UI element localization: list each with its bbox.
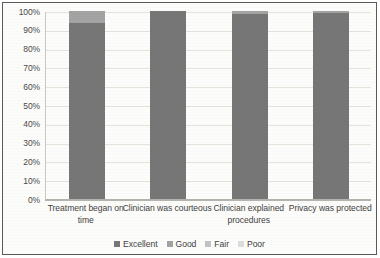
chart-frame: 100%90%80%70%60%50%40%30%20%10%0% Treatm…: [2, 2, 377, 255]
bar-group[interactable]: [69, 11, 105, 199]
bar-segment-good[interactable]: [232, 11, 268, 14]
y-axis-tick-label: 0%: [4, 196, 40, 205]
bar-group[interactable]: [313, 11, 349, 199]
x-axis-label: Clinician was courteous: [123, 203, 213, 215]
legend-item-good[interactable]: Good: [167, 239, 197, 249]
bar-segment-good[interactable]: [69, 11, 105, 23]
legend-label: Good: [176, 239, 197, 249]
x-axis-category-labels: Treatment began on timeClinician was cou…: [45, 203, 371, 233]
legend-label: Poor: [247, 239, 265, 249]
chart-canvas: 100%90%80%70%60%50%40%30%20%10%0% Treatm…: [3, 3, 376, 254]
bar-group[interactable]: [232, 11, 268, 199]
y-axis-tick-label: 70%: [4, 64, 40, 73]
gridline: [46, 200, 371, 201]
chart-legend: ExcellentGoodFairPoor: [3, 236, 376, 252]
legend-label: Excellent: [123, 239, 157, 249]
plot-area: [45, 12, 371, 200]
legend-item-fair[interactable]: Fair: [205, 239, 229, 249]
y-axis-tick-label: 40%: [4, 120, 40, 129]
y-axis-tick-label: 80%: [4, 45, 40, 54]
x-axis-label: Treatment began on time: [41, 203, 131, 226]
y-axis-tick-label: 10%: [4, 177, 40, 186]
y-axis-tick-label: 100%: [4, 8, 40, 17]
legend-swatch-icon: [205, 241, 211, 247]
bar-segment-excellent[interactable]: [232, 14, 268, 199]
legend-swatch-icon: [167, 241, 173, 247]
bar-group[interactable]: [150, 11, 186, 199]
x-axis-label: Privacy was protected: [286, 203, 376, 215]
y-axis-tick-label: 50%: [4, 102, 40, 111]
y-axis-tick-label: 90%: [4, 26, 40, 35]
bar-segment-excellent[interactable]: [150, 11, 186, 199]
y-axis-tick-label: 30%: [4, 139, 40, 148]
y-axis: 100%90%80%70%60%50%40%30%20%10%0%: [5, 3, 43, 200]
y-axis-tick-label: 60%: [4, 83, 40, 92]
x-axis-label: Clinician explained procedures: [204, 203, 294, 226]
legend-swatch-icon: [238, 241, 244, 247]
legend-item-poor[interactable]: Poor: [238, 239, 265, 249]
y-axis-tick-label: 20%: [4, 158, 40, 167]
legend-swatch-icon: [114, 241, 120, 247]
legend-label: Fair: [214, 239, 229, 249]
bar-segment-excellent[interactable]: [69, 23, 105, 199]
legend-item-excellent[interactable]: Excellent: [114, 239, 157, 249]
bar-segment-good[interactable]: [313, 11, 349, 13]
bar-segment-excellent[interactable]: [313, 13, 349, 199]
